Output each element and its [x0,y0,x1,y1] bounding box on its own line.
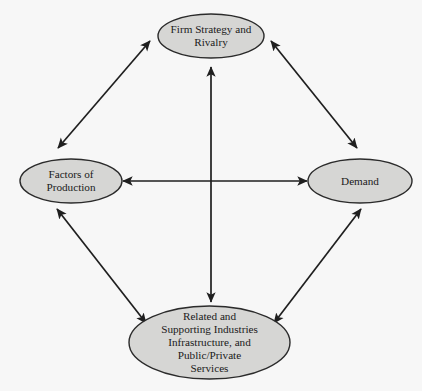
node-related-supporting-industries[interactable] [129,306,290,379]
connector-firm-strategy-to-factors [58,41,150,148]
node-shape-group [20,14,412,379]
node-factors-of-production[interactable] [20,159,122,203]
connector-demand-to-related [274,209,361,323]
diagram-canvas [0,0,422,391]
node-demand[interactable] [308,159,412,203]
connector-firm-strategy-to-demand [271,41,357,148]
node-firm-strategy[interactable] [158,14,264,58]
porter-diamond-diagram: Firm Strategy and Rivalry Factors of Pro… [0,0,422,391]
connector-factors-to-related [57,209,146,323]
